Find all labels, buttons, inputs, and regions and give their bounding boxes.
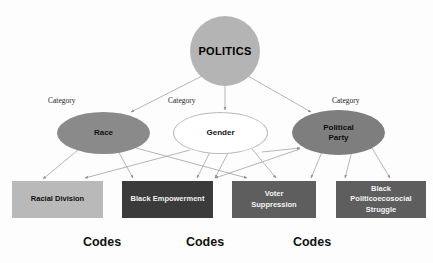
code-label-black-politicoecosocial-struggle-line2: Struggle xyxy=(366,205,396,214)
category-caption-race: Category xyxy=(48,96,76,105)
edge-politics-race xyxy=(131,76,202,112)
category-label-political-party: Political Party xyxy=(323,123,354,143)
edge-gender-political-party xyxy=(262,148,300,152)
category-node-gender[interactable]: Gender xyxy=(173,112,268,154)
code-label-voter-suppression: Voter Suppression xyxy=(251,189,296,209)
code-label-black-empowerment: Black Empowerment xyxy=(131,194,205,204)
category-node-race[interactable]: Race xyxy=(57,112,150,154)
edge-party-voter-suppression xyxy=(311,152,322,178)
code-label-black-politicoecosocial-struggle-line1: Black Politicoecosocial xyxy=(350,184,411,203)
edge-politics-political-party xyxy=(248,76,311,112)
code-box-racial-division[interactable]: Racial Division xyxy=(12,181,103,218)
codes-label-3: Codes xyxy=(282,235,342,249)
edge-race-black-empowerment xyxy=(118,151,133,178)
code-label-black-politicoecosocial-struggle: Black Politicoecosocial Struggle xyxy=(340,184,422,214)
category-label-political-party-line1: Political xyxy=(323,123,354,132)
edge-gender-politicoecosocial xyxy=(252,149,276,178)
edge-race-racial-division xyxy=(43,150,78,179)
root-node-politics[interactable]: POLITICS xyxy=(190,16,260,86)
code-box-black-empowerment[interactable]: Black Empowerment xyxy=(122,181,213,218)
code-box-voter-suppression[interactable]: Voter Suppression xyxy=(232,181,316,218)
category-label-political-party-line2: Party xyxy=(328,133,348,142)
category-caption-political-party: Category xyxy=(332,96,360,105)
code-label-racial-division: Racial Division xyxy=(31,194,84,204)
codes-label-1: Codes xyxy=(72,235,132,249)
edge-gender-racial-division xyxy=(85,150,190,178)
edge-party-politicoecosocial xyxy=(345,151,352,178)
codes-label-2: Codes xyxy=(175,235,235,249)
category-caption-gender: Category xyxy=(168,96,196,105)
diagram-canvas: POLITICS Category Category Category Race… xyxy=(0,0,433,263)
category-node-political-party[interactable]: Political Party xyxy=(292,110,385,155)
code-label-voter-suppression-line2: Suppression xyxy=(251,200,296,209)
edge-party-politicoecosocial-2 xyxy=(372,148,390,178)
category-label-gender: Gender xyxy=(206,128,234,138)
root-node-label: POLITICS xyxy=(198,45,251,57)
code-label-voter-suppression-line1: Voter xyxy=(265,189,284,198)
code-box-black-politicoecosocial-struggle[interactable]: Black Politicoecosocial Struggle xyxy=(336,181,426,218)
category-label-race: Race xyxy=(94,128,113,138)
